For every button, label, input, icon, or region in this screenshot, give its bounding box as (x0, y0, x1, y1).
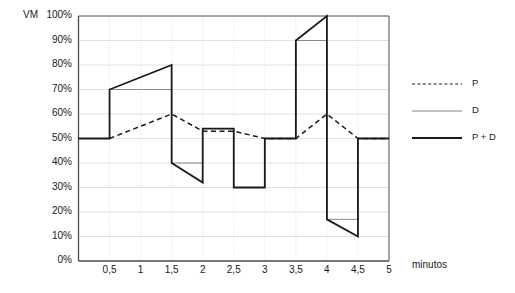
legend-label: P + D (472, 131, 496, 142)
chart-container: VM minutos 0%10%20%30%40%50%60%70%80%90%… (0, 0, 515, 293)
series-line (110, 41, 389, 220)
legend-swatches (412, 84, 462, 138)
series-line (110, 114, 389, 139)
plot-area (0, 0, 515, 293)
legend-label: P (472, 77, 478, 88)
legend-label: D (472, 104, 479, 115)
